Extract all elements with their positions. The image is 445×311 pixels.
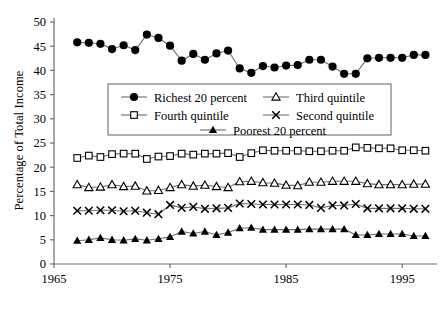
series-marker [212, 49, 220, 57]
series-marker [178, 227, 186, 234]
series-marker [340, 177, 348, 184]
series-marker [410, 51, 418, 59]
series-marker [86, 152, 93, 159]
series-marker [97, 154, 104, 161]
series-marker [144, 156, 151, 163]
series-marker [270, 63, 278, 71]
x-axis-tick-label: 1965 [42, 272, 67, 286]
y-axis-tick-label: 15 [34, 185, 47, 199]
y-axis-tick-label: 45 [34, 40, 47, 54]
series-marker [328, 62, 336, 70]
series-marker [260, 147, 267, 154]
series-marker [178, 57, 186, 65]
series-marker [329, 147, 336, 154]
series-marker [73, 38, 81, 46]
y-axis-tick-label: 25 [34, 136, 47, 150]
series-marker [248, 150, 255, 157]
y-axis-tick-label: 20 [34, 161, 47, 175]
series-marker [363, 54, 371, 62]
series-marker [225, 150, 232, 157]
series-marker [236, 64, 244, 72]
series-marker [294, 61, 302, 69]
series-marker [108, 180, 116, 187]
series-marker [236, 154, 243, 161]
series-marker [386, 54, 394, 62]
series-marker [131, 235, 139, 242]
legend-label: Second quintile [296, 109, 375, 123]
series-marker [73, 180, 81, 187]
series-marker [96, 234, 104, 241]
legend-label: Third quintile [296, 91, 366, 105]
series-marker [120, 41, 128, 49]
x-axis-tick-label: 1985 [274, 272, 299, 286]
y-axis-tick-label: 50 [34, 15, 47, 29]
series-marker [399, 147, 406, 154]
series-marker [74, 155, 81, 162]
legend-label: Richest 20 percent [154, 91, 248, 105]
series-marker [178, 180, 186, 187]
y-axis-tick-label: 0 [40, 257, 46, 271]
series-marker [387, 145, 394, 152]
series-marker [190, 151, 197, 158]
series-marker [376, 145, 383, 152]
series-line [77, 204, 425, 215]
series-marker [131, 46, 139, 54]
y-axis-tick-label: 5 [40, 233, 46, 247]
series-marker [167, 153, 174, 160]
series-marker [271, 147, 278, 154]
series-marker [282, 61, 290, 69]
series-marker [189, 50, 197, 58]
x-axis-tick-label: 1995 [390, 272, 415, 286]
series-marker [410, 147, 417, 154]
chart-figure: Percentage of Total Income 0510152025303… [0, 0, 445, 311]
series-marker [213, 150, 220, 157]
series-marker [166, 42, 174, 50]
line-chart-plot: 051015202530354045501965197519851995Rich… [0, 0, 445, 311]
series-marker [201, 181, 209, 188]
legend-label: Fourth quintile [154, 109, 229, 123]
series-marker [96, 40, 104, 48]
series-marker [364, 145, 371, 152]
series-marker [283, 147, 290, 154]
series-marker [143, 30, 151, 38]
series-marker [259, 62, 267, 70]
series-marker [132, 150, 139, 157]
y-axis-tick-label: 10 [34, 209, 47, 223]
x-axis-tick-label: 1975 [158, 272, 183, 286]
series-marker [247, 177, 255, 184]
series-marker [352, 144, 359, 151]
series-marker [421, 51, 429, 59]
series-marker [341, 147, 348, 154]
series-marker [352, 177, 360, 184]
series-marker [166, 233, 174, 240]
legend-marker-filled-circle [130, 93, 138, 101]
series-marker [247, 69, 255, 77]
series-marker [282, 225, 290, 232]
series-marker [85, 39, 93, 47]
series-marker [131, 182, 139, 189]
series-marker [421, 232, 429, 239]
y-axis-tick-label: 40 [34, 64, 47, 78]
series-marker [178, 150, 185, 157]
series-marker [120, 150, 127, 157]
series-line [77, 35, 425, 74]
series-marker [398, 54, 406, 62]
series-marker [202, 150, 209, 157]
legend-marker-open-square [131, 112, 138, 119]
series-marker [375, 54, 383, 62]
series-marker [201, 227, 209, 234]
series-marker [108, 45, 116, 53]
series-marker [270, 225, 278, 232]
y-axis-tick-label: 30 [34, 112, 47, 126]
series-marker [154, 34, 162, 42]
legend-label: Poorest 20 percent [233, 124, 327, 138]
y-axis-tick-label: 35 [34, 88, 47, 102]
series-marker [318, 148, 325, 155]
series-marker [201, 56, 209, 64]
series-marker [294, 147, 301, 154]
series-marker [155, 153, 162, 160]
series-marker [224, 46, 232, 54]
series-marker [306, 148, 313, 155]
series-marker [247, 224, 255, 231]
series-marker [328, 177, 336, 184]
